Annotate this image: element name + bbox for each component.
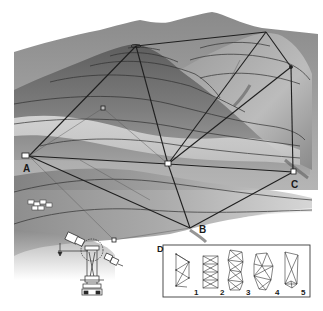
station-marker-bottom xyxy=(112,238,116,242)
inset-label: D xyxy=(157,244,164,254)
pattern-label-4: 4 xyxy=(275,288,280,297)
triangulation-figure: A B C D xyxy=(0,0,323,311)
station-label-a: A xyxy=(23,163,30,174)
station-marker-right xyxy=(290,66,293,69)
station-marker-center xyxy=(165,161,171,166)
pattern-label-5: 5 xyxy=(301,288,306,297)
station-label-b: B xyxy=(199,224,206,235)
station-marker-small xyxy=(101,106,105,110)
pattern-label-1: 1 xyxy=(194,288,199,297)
station-marker-c xyxy=(291,169,296,174)
station-label-c: C xyxy=(291,179,298,190)
terrain xyxy=(14,12,318,280)
station-marker-a xyxy=(22,153,29,158)
inset-d: D 1 2 3 xyxy=(157,244,310,297)
pattern-label-2: 2 xyxy=(220,288,225,297)
pattern-label-3: 3 xyxy=(246,288,251,297)
